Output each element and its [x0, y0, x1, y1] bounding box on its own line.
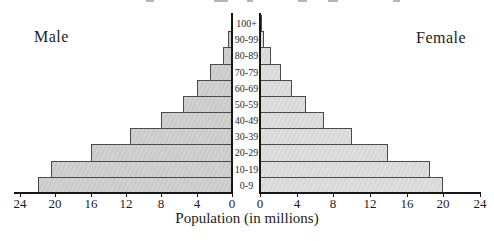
male-bar-20-29	[91, 144, 232, 162]
age-label-0-9: 0-9	[233, 177, 260, 194]
female-bar-50-59	[260, 96, 306, 113]
age-label-50-59: 50-59	[233, 96, 260, 113]
cropped-text-artifact	[214, 0, 228, 2]
cropped-text-artifact	[247, 0, 253, 2]
female-bar-80-89	[260, 47, 271, 65]
female-zero-axis-line	[259, 13, 261, 194]
female-bar-60-69	[260, 80, 292, 97]
male-bar-70-79	[210, 64, 232, 81]
male-bar-30-39	[130, 128, 232, 145]
male-bar-60-69	[197, 80, 232, 97]
cropped-text-artifact	[393, 0, 400, 2]
population-pyramid-chart: Male Female 100+90-9980-8970-7960-6950-5…	[0, 0, 494, 241]
age-label-30-39: 30-39	[233, 128, 260, 145]
female-bar-40-49	[260, 112, 324, 129]
age-label-10-19: 10-19	[233, 161, 260, 178]
age-label-40-49: 40-49	[233, 112, 260, 129]
female-bar-70-79	[260, 64, 281, 81]
cropped-text-artifact	[146, 0, 154, 2]
male-bar-40-49	[161, 112, 232, 129]
male-x-axis	[14, 192, 233, 194]
male-bar-10-19	[51, 161, 232, 178]
cropped-text-artifact	[328, 0, 338, 2]
male-bar-50-59	[183, 96, 232, 113]
female-side-label: Female	[416, 29, 466, 47]
x-axis-title: Population (in millions)	[0, 210, 494, 227]
cropped-text-artifact	[298, 0, 307, 2]
female-bar-10-19	[260, 161, 430, 178]
female-bar-30-39	[260, 128, 352, 145]
male-zero-axis-line	[231, 13, 233, 194]
age-label-60-69: 60-69	[233, 80, 260, 97]
male-side-label: Male	[34, 28, 69, 46]
age-label-20-29: 20-29	[233, 144, 260, 162]
age-label-80-89: 80-89	[233, 47, 260, 65]
female-bar-20-29	[260, 144, 388, 162]
age-label-70-79: 70-79	[233, 64, 260, 81]
age-label-90-99: 90-99	[233, 31, 260, 48]
age-label-100+: 100+	[233, 15, 260, 32]
